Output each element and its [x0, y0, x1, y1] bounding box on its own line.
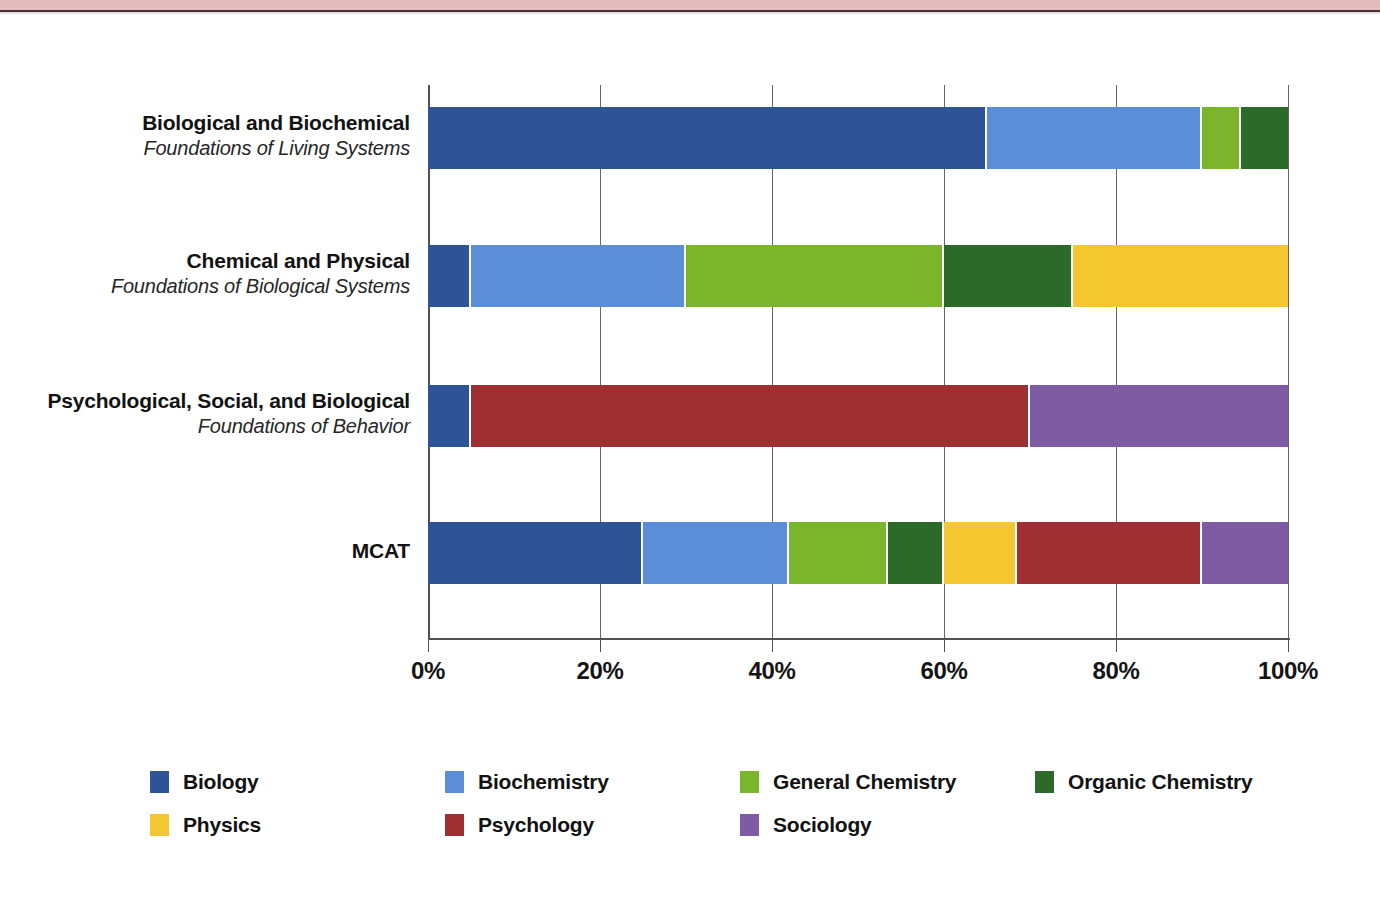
bar-segment-biology — [428, 385, 471, 447]
x-axis-line — [428, 638, 1290, 640]
tick-mark — [1116, 638, 1117, 652]
legend-item-psychology: Psychology — [445, 813, 740, 837]
bar-row — [428, 245, 1288, 307]
category-subtitle: Foundations of Behavior — [8, 414, 410, 438]
category-title: MCAT — [8, 538, 410, 564]
bar-segment-sociology — [1202, 522, 1288, 584]
legend-label: General Chemistry — [773, 770, 956, 794]
x-tick-label: 100% — [1228, 657, 1348, 685]
bar-segment-general-chemistry — [1202, 107, 1241, 169]
x-tick-label: 80% — [1056, 657, 1176, 685]
x-tick-label: 20% — [540, 657, 660, 685]
category-label: MCAT — [8, 538, 428, 564]
bar-segment-general-chemistry — [686, 245, 944, 307]
legend-item-sociology: Sociology — [740, 813, 1035, 837]
stacked-bar-chart-figure: 0%20%40%60%80%100% Biological and Bioche… — [0, 15, 1380, 905]
x-tick-label: 40% — [712, 657, 832, 685]
legend-label: Psychology — [478, 813, 594, 837]
legend-swatch-icon — [150, 771, 169, 793]
legend-swatch-icon — [445, 771, 464, 793]
legend-item-biochemistry: Biochemistry — [445, 770, 740, 794]
category-label: Biological and BiochemicalFoundations of… — [8, 110, 428, 160]
category-label: Chemical and PhysicalFoundations of Biol… — [8, 248, 428, 298]
legend-item-biology: Biology — [150, 770, 445, 794]
legend-label: Biochemistry — [478, 770, 609, 794]
legend-swatch-icon — [150, 814, 169, 836]
bar-segment-biology — [428, 107, 987, 169]
tick-mark — [772, 638, 773, 652]
category-subtitle: Foundations of Biological Systems — [8, 274, 410, 298]
bar-segment-organic-chemistry — [1241, 107, 1288, 169]
legend-item-general-chemistry: General Chemistry — [740, 770, 1035, 794]
bar-segment-biochemistry — [471, 245, 686, 307]
bar-row — [428, 522, 1288, 584]
legend-swatch-icon — [1035, 771, 1054, 793]
tick-mark — [944, 638, 945, 652]
bar-segment-biochemistry — [643, 522, 789, 584]
x-tick-label: 0% — [368, 657, 488, 685]
x-tick-label: 60% — [884, 657, 1004, 685]
tick-mark — [1288, 638, 1289, 652]
legend-item-physics: Physics — [150, 813, 445, 837]
bar-segment-psychology — [471, 385, 1030, 447]
bar-row — [428, 385, 1288, 447]
top-decorative-band — [0, 0, 1380, 12]
bar-segment-physics — [1073, 245, 1288, 307]
bar-row — [428, 107, 1288, 169]
category-title: Biological and Biochemical — [8, 110, 410, 136]
legend-swatch-icon — [740, 814, 759, 836]
legend-label: Organic Chemistry — [1068, 770, 1253, 794]
bar-segment-organic-chemistry — [944, 245, 1073, 307]
legend-item-organic-chemistry: Organic Chemistry — [1035, 770, 1330, 794]
category-title: Chemical and Physical — [8, 248, 410, 274]
tick-mark — [600, 638, 601, 652]
legend-label: Biology — [183, 770, 259, 794]
bar-segment-psychology — [1017, 522, 1202, 584]
category-title: Psychological, Social, and Biological — [8, 388, 410, 414]
bar-segment-organic-chemistry — [888, 522, 944, 584]
gridline — [1288, 85, 1289, 640]
bar-segment-biology — [428, 522, 643, 584]
legend-label: Sociology — [773, 813, 872, 837]
legend-swatch-icon — [445, 814, 464, 836]
bar-segment-sociology — [1030, 385, 1288, 447]
bar-segment-biology — [428, 245, 471, 307]
category-label: Psychological, Social, and BiologicalFou… — [8, 388, 428, 438]
bar-segment-general-chemistry — [789, 522, 888, 584]
chart-legend: BiologyBiochemistryGeneral ChemistryOrga… — [150, 760, 1330, 846]
legend-label: Physics — [183, 813, 261, 837]
bar-segment-physics — [944, 522, 1017, 584]
tick-mark — [428, 638, 429, 652]
plot-area: 0%20%40%60%80%100% — [428, 85, 1288, 640]
bar-segment-biochemistry — [987, 107, 1202, 169]
legend-swatch-icon — [740, 771, 759, 793]
category-subtitle: Foundations of Living Systems — [8, 136, 410, 160]
